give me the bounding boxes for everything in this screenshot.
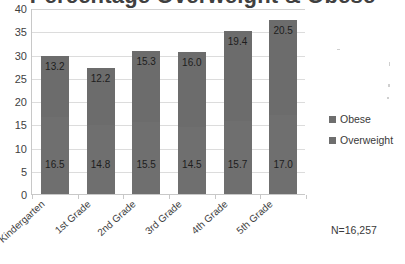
bar-segment-obese[interactable]: 12.2 — [87, 68, 115, 125]
x-axis-category-label: 3rd Grade — [143, 199, 183, 237]
x-axis-category-label: 5th Grade — [235, 199, 275, 236]
x-axis-category-labels: Kindergarten1st Grade2nd Grade3rd Grade4… — [31, 199, 305, 259]
bar-series-group: 16.513.214.812.215.515.314.516.015.719.4… — [32, 9, 305, 194]
chart-title-clip: Percentage Overweight & Obese — [0, 0, 405, 9]
chart-legend: ObeseOverweight — [329, 113, 393, 155]
x-axis-category-label: 4th Grade — [189, 199, 229, 236]
bar-value-label: 14.8 — [91, 160, 110, 170]
stacked-bar[interactable]: 14.516.0 — [178, 52, 206, 194]
legend-swatch-icon — [329, 116, 336, 123]
bar-value-label: 12.2 — [91, 74, 110, 84]
bar-segment-obese[interactable]: 19.4 — [224, 31, 252, 121]
bar-segment-overweight[interactable]: 15.5 — [132, 122, 160, 194]
stacked-bar[interactable]: 15.719.4 — [224, 31, 252, 194]
scan-speckle — [387, 97, 389, 99]
legend-label: Overweight — [340, 134, 393, 146]
bar-segment-obese[interactable]: 13.2 — [41, 56, 69, 117]
stacked-bar[interactable]: 15.515.3 — [132, 51, 160, 194]
y-axis-tick-label: 10 — [15, 143, 27, 154]
y-axis-tick-label: 0 — [21, 190, 27, 201]
bar-value-label: 13.2 — [45, 62, 64, 72]
stacked-bar[interactable]: 17.020.5 — [269, 20, 297, 194]
scan-speckle — [388, 84, 390, 87]
x-axis-tick — [306, 195, 307, 199]
bar-value-label: 15.5 — [136, 160, 155, 170]
scan-speckle — [389, 62, 390, 66]
legend-item-overweight[interactable]: Overweight — [329, 134, 393, 146]
bar-value-label: 16.5 — [45, 160, 64, 170]
bar-segment-obese[interactable]: 15.3 — [132, 51, 160, 122]
y-axis-tick-label: 20 — [15, 97, 27, 108]
bar-segment-overweight[interactable]: 16.5 — [41, 117, 69, 194]
bar-segment-obese[interactable]: 20.5 — [269, 20, 297, 115]
y-axis-tick-label: 15 — [15, 120, 27, 131]
y-axis-tick-label: 5 — [21, 166, 27, 177]
bar-value-label: 17.0 — [273, 160, 292, 170]
y-axis-tick-label: 30 — [15, 50, 27, 61]
bar-segment-overweight[interactable]: 14.8 — [87, 125, 115, 194]
y-axis-tick-label: 35 — [15, 27, 27, 38]
bar-segment-overweight[interactable]: 14.5 — [178, 127, 206, 194]
chart-title: Percentage Overweight & Obese — [0, 0, 405, 9]
bar-value-label: 15.3 — [136, 57, 155, 67]
sample-size-note: N=16,257 — [331, 224, 377, 236]
bar-value-label: 20.5 — [273, 26, 292, 36]
y-axis-labels: 4035302520151050 — [0, 9, 27, 195]
bar-segment-obese[interactable]: 16.0 — [178, 52, 206, 126]
legend-item-obese[interactable]: Obese — [329, 113, 393, 125]
x-axis-category-label: 1st Grade — [53, 199, 92, 236]
stacked-bar[interactable]: 16.513.2 — [41, 56, 69, 194]
chart-root: Percentage Overweight & Obese 4035302520… — [0, 0, 405, 264]
bar-value-label: 14.5 — [182, 160, 201, 170]
legend-label: Obese — [340, 113, 371, 125]
y-axis-tick-label: 25 — [15, 73, 27, 84]
bar-value-label: 19.4 — [228, 37, 247, 47]
x-axis-category-label: 2nd Grade — [96, 199, 138, 238]
stacked-bar[interactable]: 14.812.2 — [87, 68, 115, 194]
bar-value-label: 15.7 — [228, 160, 247, 170]
y-axis-tick-label: 40 — [15, 4, 27, 15]
bar-segment-overweight[interactable]: 17.0 — [269, 115, 297, 194]
bar-segment-overweight[interactable]: 15.7 — [224, 121, 252, 194]
legend-swatch-icon — [329, 137, 336, 144]
scan-speckle — [337, 49, 340, 50]
x-axis-category-label: Kindergarten — [0, 199, 47, 245]
bar-value-label: 16.0 — [182, 58, 201, 68]
plot-area: 16.513.214.812.215.515.314.516.015.719.4… — [31, 9, 305, 195]
